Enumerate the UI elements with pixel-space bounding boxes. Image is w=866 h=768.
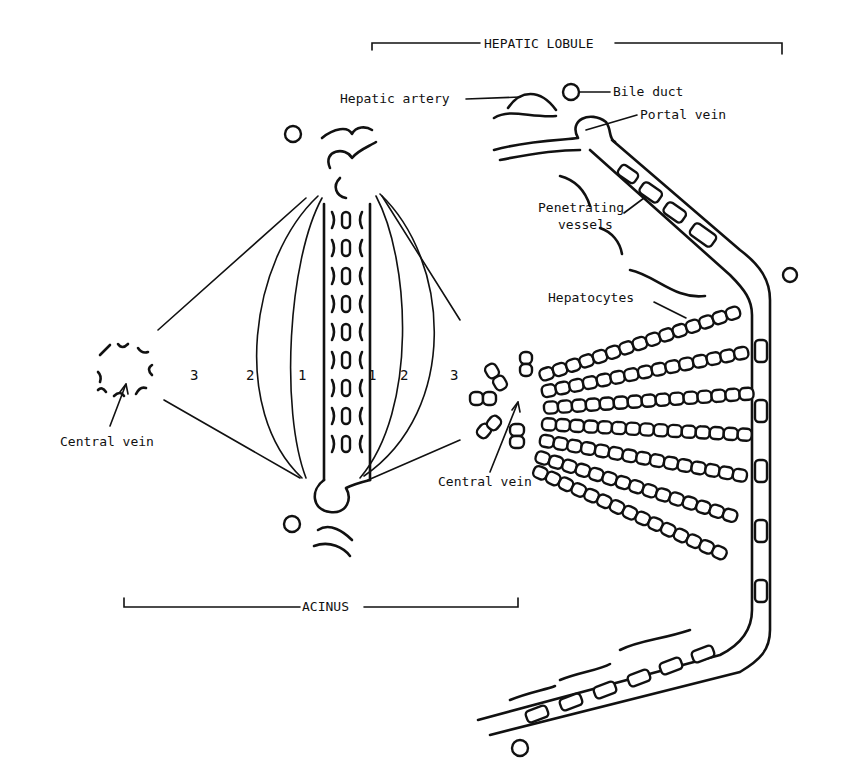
lobule-boundary (478, 140, 797, 756)
zone-3-left: 3 (190, 367, 198, 383)
hepatocyte-plates (532, 305, 754, 560)
hepatic-lobule-bracket: HEPATIC LOBULE (372, 36, 782, 54)
right-central-vein (470, 352, 532, 448)
acinus-label: ACINUS (302, 599, 349, 614)
left-central-vein-label: Central vein (60, 434, 154, 449)
zone-3-right: 3 (450, 367, 458, 383)
hepatic-lobule-label: HEPATIC LOBULE (484, 36, 594, 51)
hepatic-artery-label: Hepatic artery (340, 91, 450, 106)
zone-2-left: 2 (246, 367, 254, 383)
left-central-vein-arrow (110, 384, 126, 426)
penetrating-vessels-arrow (624, 198, 644, 213)
portal-vein-shape (494, 117, 615, 150)
penetrating-vessels-label-1: Penetrating (538, 200, 624, 215)
zone-2-right: 2 (400, 367, 408, 383)
acinus-zone-boundaries (158, 194, 460, 480)
hepatocytes-arrow (654, 302, 686, 318)
hepatocytes-label: Hepatocytes (548, 290, 634, 305)
bile-duct-label: Bile duct (613, 84, 683, 99)
hepatic-artery-arrow (466, 97, 520, 99)
acinus-portal-tract (284, 126, 376, 556)
liver-acinus-lobule-diagram: HEPATIC LOBULE ACINUS Hepatic artery Bil… (0, 0, 866, 768)
portal-vein-label: Portal vein (640, 107, 726, 122)
acinus-bracket: ACINUS (124, 598, 518, 614)
bile-duct-shape (563, 84, 579, 100)
penetrating-vessels-label-2: vessels (558, 217, 613, 232)
zone-1-left: 1 (298, 367, 306, 383)
right-central-vein-label: Central vein (438, 474, 532, 489)
